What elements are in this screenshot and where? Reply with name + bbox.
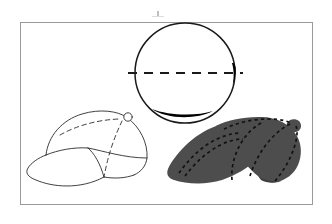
scan-tick-shadow [152,16,164,17]
crown-button [124,113,132,121]
figure-panel: Technical illustration sheet: top plan v… [0,0,332,224]
cap-illustration [0,0,332,224]
